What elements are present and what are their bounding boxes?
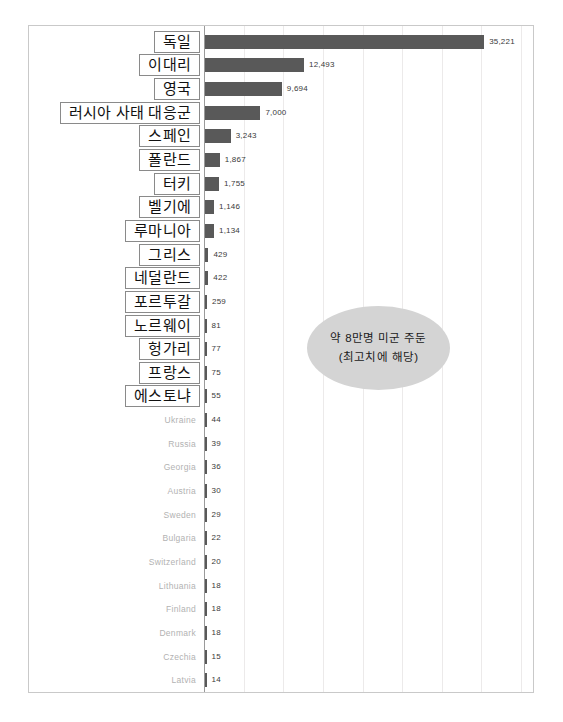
annotation-line-1: 약 8만명 미군 주둔 <box>330 329 426 348</box>
bar-row: 프랑스75 <box>29 361 533 385</box>
bar-value-label: 1,134 <box>219 227 240 235</box>
category-label: Czechia <box>163 652 200 661</box>
bar-row: Latvia14 <box>29 668 533 692</box>
bar <box>205 413 207 427</box>
bar-value-label: 422 <box>213 274 227 282</box>
bar-value-label: 18 <box>212 605 221 613</box>
bar-row: Russia39 <box>29 432 533 456</box>
category-label: 루마니아 <box>125 220 200 242</box>
bar-value-label: 1,755 <box>224 180 245 188</box>
bar-value-label: 55 <box>212 392 221 400</box>
bar <box>205 153 220 167</box>
bar-value-label: 75 <box>212 369 221 377</box>
bar <box>205 58 304 72</box>
bar-value-label: 35,221 <box>489 38 515 46</box>
bar-value-label: 18 <box>212 629 221 637</box>
bar-row: Ukraine44 <box>29 408 533 432</box>
bar-value-label: 15 <box>212 653 221 661</box>
category-label: 독일 <box>154 31 200 53</box>
category-label: Lithuania <box>159 581 200 590</box>
bar <box>205 650 207 664</box>
bar-value-label: 29 <box>212 511 221 519</box>
bar <box>205 579 207 593</box>
bar-value-label: 12,493 <box>309 61 335 69</box>
bar-row: 영국9,694 <box>29 77 533 101</box>
bar-value-label: 36 <box>212 463 221 471</box>
bar <box>205 295 207 309</box>
bar-row: Austria30 <box>29 479 533 503</box>
bar-value-label: 3,243 <box>236 132 257 140</box>
category-label: Bulgaria <box>162 534 200 543</box>
bar-row: Denmark18 <box>29 621 533 645</box>
bar-value-label: 39 <box>212 440 221 448</box>
category-label: Sweden <box>163 510 200 519</box>
bar <box>205 626 207 640</box>
bar <box>205 555 207 569</box>
bar-value-label: 77 <box>212 345 221 353</box>
category-label: Switzerland <box>149 558 200 567</box>
bar-value-label: 1,867 <box>225 156 246 164</box>
bar-row: Bulgaria22 <box>29 527 533 551</box>
bar-row: 벨기에1,146 <box>29 196 533 220</box>
bar <box>205 177 219 191</box>
bar <box>205 342 207 356</box>
bar-value-label: 7,000 <box>265 109 286 117</box>
bar <box>205 319 207 333</box>
bar <box>205 129 231 143</box>
category-label: 그리스 <box>139 244 200 266</box>
bar <box>205 366 207 380</box>
category-label: 폴란드 <box>139 149 200 171</box>
annotation-callout: 약 8만명 미군 주둔 (최고치에 해당) <box>307 306 450 390</box>
bar-row: Sweden29 <box>29 503 533 527</box>
category-label: 에스토냐 <box>125 385 200 407</box>
chart-frame: 독일35,221이대리12,493영국9,694러시아 사태 대응군7,000스… <box>28 25 534 693</box>
bar <box>205 224 214 238</box>
bar-row: 네덜란드422 <box>29 266 533 290</box>
category-label: 헝가리 <box>139 338 200 360</box>
bar-row: Lithuania18 <box>29 574 533 598</box>
bar-row: Georgia36 <box>29 456 533 480</box>
bar-row: 스페인3,243 <box>29 125 533 149</box>
category-label: 포르투갈 <box>125 291 200 313</box>
category-label: 터키 <box>154 173 200 195</box>
bar-row: 헝가리77 <box>29 337 533 361</box>
bar-row: Switzerland20 <box>29 550 533 574</box>
bar <box>205 484 207 498</box>
bar <box>205 508 207 522</box>
category-label: 노르웨이 <box>125 315 200 337</box>
bar-value-label: 429 <box>213 251 227 259</box>
bar <box>205 200 214 214</box>
category-label: Russia <box>168 439 200 448</box>
category-label: Denmark <box>159 629 200 638</box>
category-label: 네덜란드 <box>125 267 200 289</box>
category-label: 이대리 <box>139 54 200 76</box>
bar-value-label: 30 <box>212 487 221 495</box>
bar-row: 포르투갈259 <box>29 290 533 314</box>
bar <box>205 531 207 545</box>
category-label: Ukraine <box>165 416 200 425</box>
category-label: 벨기에 <box>139 196 200 218</box>
category-label: Austria <box>167 487 200 496</box>
category-label: Georgia <box>164 463 200 472</box>
category-label: 스페인 <box>139 125 200 147</box>
bar <box>205 106 260 120</box>
category-label: Latvia <box>172 676 200 685</box>
bar <box>205 673 207 687</box>
bar-row: 루마니아1,134 <box>29 219 533 243</box>
bar-value-label: 18 <box>212 582 221 590</box>
bar-value-label: 1,146 <box>219 203 240 211</box>
bar-row: 러시아 사태 대응군7,000 <box>29 101 533 125</box>
bar-row: 독일35,221 <box>29 30 533 54</box>
bar-row: Czechia15 <box>29 645 533 669</box>
bar-value-label: 9,694 <box>287 85 308 93</box>
bar-value-label: 22 <box>212 534 221 542</box>
bar-row: 폴란드1,867 <box>29 148 533 172</box>
category-label: 영국 <box>154 78 200 100</box>
bar-row: 그리스429 <box>29 243 533 267</box>
bar <box>205 602 207 616</box>
bar-row: 에스토냐55 <box>29 385 533 409</box>
category-label: Finland <box>166 605 200 614</box>
bar <box>205 271 208 285</box>
bar-row: 노르웨이81 <box>29 314 533 338</box>
bar-value-label: 259 <box>212 298 226 306</box>
